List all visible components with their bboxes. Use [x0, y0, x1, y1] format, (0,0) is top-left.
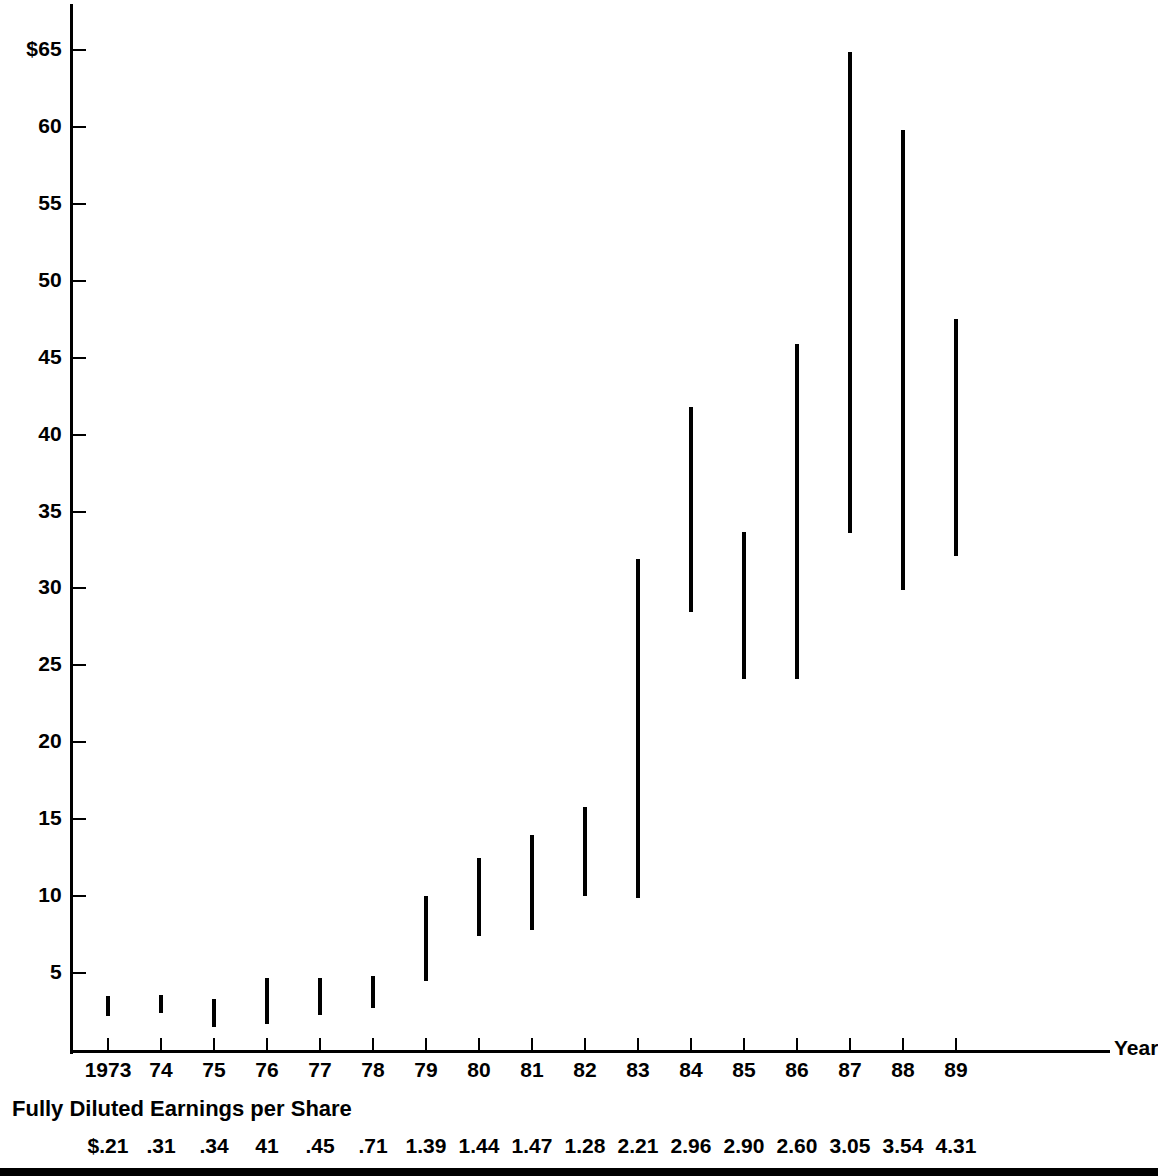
y-axis-tick-label: 55: [4, 191, 62, 215]
eps-value: 1.44: [449, 1134, 509, 1158]
y-axis-tick-label: 15: [4, 806, 62, 830]
chart-figure: $6560555045403530252015105 1973747576777…: [0, 0, 1158, 1176]
y-axis-tick-label: 50: [4, 268, 62, 292]
x-axis-tick: [955, 1038, 957, 1051]
x-axis-line: [70, 1050, 1110, 1053]
y-axis-tick-label: $65: [4, 37, 62, 61]
x-axis-tick: [478, 1038, 480, 1051]
x-axis-tick: [160, 1038, 162, 1051]
x-axis-tick: [425, 1038, 427, 1051]
x-axis-tick: [902, 1038, 904, 1051]
price-range-bar: [848, 52, 852, 534]
y-axis-tick: [73, 49, 86, 51]
eps-value: .31: [131, 1134, 191, 1158]
x-axis-tick-label: 82: [555, 1058, 615, 1082]
x-axis-tick: [372, 1038, 374, 1051]
price-range-bar: [265, 978, 269, 1024]
y-axis-tick: [73, 511, 86, 513]
y-axis-tick-label: 45: [4, 345, 62, 369]
y-axis-tick: [73, 818, 86, 820]
price-range-bar: [689, 407, 693, 612]
x-axis-tick: [796, 1038, 798, 1051]
price-range-bar: [530, 835, 534, 930]
y-axis-tick: [73, 895, 86, 897]
eps-value: .34: [184, 1134, 244, 1158]
eps-value: 1.39: [396, 1134, 456, 1158]
y-axis-tick-label: 25: [4, 652, 62, 676]
eps-value: .71: [343, 1134, 403, 1158]
x-axis-tick-label: 81: [502, 1058, 562, 1082]
x-axis-tick: [213, 1038, 215, 1051]
price-range-bar: [636, 559, 640, 897]
x-axis-tick: [637, 1038, 639, 1051]
price-range-bar: [424, 896, 428, 981]
price-range-bar: [106, 996, 110, 1016]
x-axis-tick-label: 80: [449, 1058, 509, 1082]
eps-value: 2.21: [608, 1134, 668, 1158]
x-axis-tick-label: 77: [290, 1058, 350, 1082]
plot-area: $6560555045403530252015105 1973747576777…: [0, 0, 1158, 1176]
y-axis-tick: [73, 434, 86, 436]
y-axis-tick-label: 60: [4, 114, 62, 138]
eps-value: 1.47: [502, 1134, 562, 1158]
price-range-bar: [583, 807, 587, 896]
x-axis-tick-label: 88: [873, 1058, 933, 1082]
price-range-bar: [318, 978, 322, 1015]
eps-value: .45: [290, 1134, 350, 1158]
y-axis-tick: [73, 126, 86, 128]
x-axis-tick: [531, 1038, 533, 1051]
y-axis-tick: [73, 741, 86, 743]
y-axis-tick-label: 35: [4, 499, 62, 523]
y-axis-tick: [73, 972, 86, 974]
price-range-bar: [901, 130, 905, 590]
y-axis-tick: [73, 357, 86, 359]
eps-value: 3.54: [873, 1134, 933, 1158]
y-axis-tick: [73, 280, 86, 282]
price-range-bar: [742, 532, 746, 680]
price-range-bar: [795, 344, 799, 679]
eps-value: 2.96: [661, 1134, 721, 1158]
x-axis-tick: [690, 1038, 692, 1051]
eps-value: 4.31: [926, 1134, 986, 1158]
y-axis-tick: [73, 587, 86, 589]
x-axis-tick: [584, 1038, 586, 1051]
y-axis-tick-label: 5: [4, 960, 62, 984]
x-axis-tick-label: 75: [184, 1058, 244, 1082]
x-axis-tick-label: 87: [820, 1058, 880, 1082]
price-range-bar: [212, 999, 216, 1027]
x-axis-tick-label: 85: [714, 1058, 774, 1082]
x-axis-title: Year: [1114, 1036, 1158, 1060]
x-axis-tick-label: 79: [396, 1058, 456, 1082]
x-axis-tick-label: 86: [767, 1058, 827, 1082]
eps-value: 1.28: [555, 1134, 615, 1158]
eps-value: 3.05: [820, 1134, 880, 1158]
x-axis-tick-label: 83: [608, 1058, 668, 1082]
eps-value: $.21: [78, 1134, 138, 1158]
x-axis-tick: [266, 1038, 268, 1051]
x-axis-tick-label: 1973: [78, 1058, 138, 1082]
price-range-bar: [954, 319, 958, 556]
y-axis-tick-label: 40: [4, 422, 62, 446]
x-axis-tick: [319, 1038, 321, 1051]
price-range-bar: [159, 995, 163, 1013]
y-axis-tick-label: 20: [4, 729, 62, 753]
y-axis-tick-label: 30: [4, 575, 62, 599]
y-axis-tick: [73, 664, 86, 666]
eps-heading: Fully Diluted Earnings per Share: [12, 1096, 352, 1122]
y-axis-tick-label: 10: [4, 883, 62, 907]
eps-value: 41: [237, 1134, 297, 1158]
x-axis-tick: [107, 1038, 109, 1051]
x-axis-tick-label: 89: [926, 1058, 986, 1082]
x-axis-tick: [849, 1038, 851, 1051]
x-axis-tick-label: 76: [237, 1058, 297, 1082]
price-range-bar: [371, 976, 375, 1008]
x-axis-tick-label: 74: [131, 1058, 191, 1082]
x-axis-tick-label: 84: [661, 1058, 721, 1082]
y-axis-tick: [73, 203, 86, 205]
bottom-rule: [0, 1168, 1158, 1176]
price-range-bar: [477, 858, 481, 936]
eps-value: 2.90: [714, 1134, 774, 1158]
x-axis-tick-label: 78: [343, 1058, 403, 1082]
eps-value: 2.60: [767, 1134, 827, 1158]
x-axis-tick: [743, 1038, 745, 1051]
